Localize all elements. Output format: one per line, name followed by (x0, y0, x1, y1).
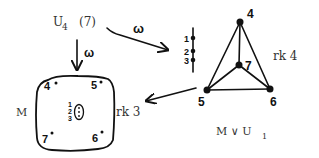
vertex-label-7: 7 (245, 59, 252, 73)
vertex-label-4: 4 (247, 7, 254, 21)
edge-4-6 (240, 22, 270, 89)
vertex-7 (236, 62, 243, 69)
box-label-4: 4 (44, 80, 51, 92)
box-name-label: M (16, 106, 27, 119)
box-point-7 (51, 132, 54, 135)
box-point-5 (100, 81, 103, 84)
box-label-5: 5 (91, 79, 97, 91)
inner-dot-2 (78, 111, 80, 113)
arrow-left (146, 88, 196, 101)
box-label-6: 6 (92, 132, 98, 144)
stack-label-3: 3 (184, 56, 189, 66)
top-label: U 4 (7) (53, 15, 96, 32)
vertex-4 (237, 19, 244, 26)
box-point-6 (101, 131, 104, 134)
stack-point-1 (191, 36, 196, 41)
top-label-sub: 4 (62, 22, 68, 32)
tetra-caption-sub: 1 (262, 132, 267, 141)
vertex-6 (267, 86, 274, 93)
inner-label-1: 1 (68, 101, 72, 108)
parallel-stack: 1 2 3 (184, 28, 195, 72)
inner-dot-3 (78, 115, 80, 117)
stack-label-1: 1 (184, 34, 189, 44)
edge-4-7 (239, 22, 240, 65)
box-rank-label: rk 3 (116, 105, 140, 119)
stack-point-2 (191, 49, 196, 54)
inner-label-2: 2 (68, 108, 72, 115)
diagram-canvas: U 4 (7) ω ω 1 2 3 4 7 5 6 rk 4 M ∨ U 1 (0, 0, 319, 158)
box-point-4 (55, 82, 58, 85)
arrow-right-label: ω (133, 21, 144, 36)
vertex-5 (204, 87, 211, 94)
stack-point-3 (191, 58, 196, 63)
vertex-label-6: 6 (270, 95, 277, 109)
top-label-suffix: (7) (79, 15, 96, 29)
box-label-7: 7 (42, 133, 48, 145)
inner-dot-1 (78, 107, 80, 109)
tetra-caption: M ∨ U (216, 125, 252, 138)
tetra-graph: 4 7 5 6 rk 4 M ∨ U 1 (198, 7, 298, 141)
arrow-down-label: ω (84, 46, 94, 60)
edge-5-6 (207, 89, 270, 90)
vertex-label-5: 5 (198, 95, 205, 109)
matroid-diagram: U 4 (7) ω ω 1 2 3 4 7 5 6 rk 4 M ∨ U 1 (0, 0, 319, 158)
edge-4-5 (207, 22, 240, 90)
inner-label-3: 3 (68, 115, 72, 122)
edge-7-5 (207, 65, 239, 90)
tetra-rank-label: rk 4 (273, 49, 298, 63)
rank-3-box: 4 5 7 6 1 2 3 M rk 3 (16, 76, 140, 151)
